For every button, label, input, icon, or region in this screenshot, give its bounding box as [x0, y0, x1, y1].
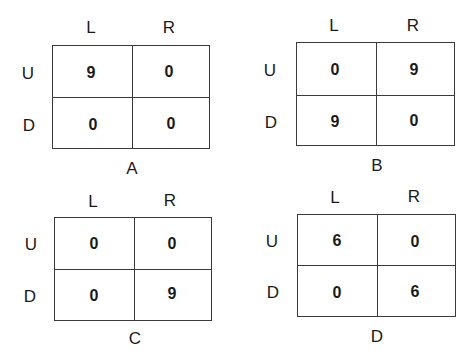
grid-divider-horizontal: [298, 265, 455, 266]
matrix-grid: 6 0 0 6: [297, 214, 456, 317]
cell-u-l: 6: [333, 233, 342, 249]
cell-d-l: 0: [333, 285, 342, 301]
cell-d-r: 6: [411, 284, 420, 300]
row-label-d: D: [267, 284, 279, 301]
col-label-l: L: [330, 189, 339, 206]
cell-u-r: 0: [411, 234, 420, 250]
matrix-caption: D: [371, 328, 383, 345]
row-label-u: U: [266, 233, 278, 250]
payoff-matrix-d: L R U D 6 0 0 6 D: [0, 0, 473, 364]
col-label-r: R: [408, 188, 420, 205]
